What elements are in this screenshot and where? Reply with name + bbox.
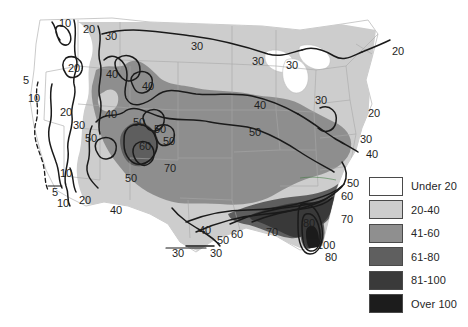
contour-label: 30 [172, 247, 184, 259]
contour-label: 20 [79, 194, 91, 206]
contour-label: 70 [341, 213, 353, 225]
contour-label: 10 [60, 167, 72, 179]
contour-label: 30 [210, 247, 222, 259]
contour-label: 60 [341, 190, 353, 202]
contour-label: 60 [139, 140, 151, 152]
legend-label: Over 100 [411, 298, 457, 310]
contour-label: 30 [105, 30, 117, 42]
contour-map-figure: 1020303020404051030302040203040505050506… [0, 0, 468, 327]
legend-label: 81-100 [411, 274, 446, 286]
legend-swatch [369, 177, 403, 196]
legend-entry: 20-40 [369, 200, 440, 220]
contour-label: 50 [85, 132, 97, 144]
contour-label: 10 [59, 17, 71, 29]
legend-label: 41-60 [411, 227, 440, 239]
map-legend: Under 2020-4041-6061-8081-100Over 100 [369, 176, 468, 316]
contour-label: 40 [110, 204, 122, 216]
legend-label: 61-80 [411, 251, 440, 263]
contour-label: 80 [303, 217, 315, 229]
contour-label: 10 [28, 92, 40, 104]
contour-label: 70 [266, 226, 278, 238]
legend-swatch [369, 271, 403, 290]
legend-label: Under 20 [411, 180, 457, 192]
contour-label: 5 [23, 74, 29, 86]
contour-label: 50 [125, 172, 137, 184]
contour-label: 10 [57, 197, 69, 209]
contour-label: 40 [106, 68, 118, 80]
contour-label: 80 [325, 251, 337, 263]
contour-label: 50 [217, 234, 229, 246]
contour-label: 20 [392, 45, 404, 57]
contour-label: 50 [347, 177, 359, 189]
contour-label: 100 [317, 239, 335, 251]
contour-label: 70 [164, 162, 176, 174]
contour-label: 30 [286, 59, 298, 71]
legend-label: 20-40 [411, 204, 440, 216]
contour-label: 50 [163, 135, 175, 147]
contour-label: 50 [133, 116, 145, 128]
contour-label: 30 [315, 94, 327, 106]
legend-swatch [369, 224, 403, 243]
legend-swatch [369, 200, 403, 219]
legend-entry: 41-60 [369, 223, 440, 243]
legend-entry: 81-100 [369, 270, 446, 290]
contour-label: 40 [199, 224, 211, 236]
contour-label: 50 [249, 126, 261, 138]
legend-entry: 61-80 [369, 247, 440, 267]
legend-swatch [369, 247, 403, 266]
contour-label: 20 [368, 107, 380, 119]
contour-label: 30 [360, 133, 372, 145]
contour-label: 30 [73, 119, 85, 131]
legend-entry: Over 100 [369, 294, 457, 314]
contour-label: 40 [366, 148, 378, 160]
contour-label: 50 [154, 123, 166, 135]
legend-entry: Under 20 [369, 176, 457, 196]
contour-label: 20 [68, 62, 80, 74]
contour-label: 40 [142, 80, 154, 92]
contour-label: 20 [83, 23, 95, 35]
legend-swatch [369, 294, 403, 313]
contour-label: 40 [105, 108, 117, 120]
contour-label: 20 [60, 106, 72, 118]
contour-label: 30 [191, 40, 203, 52]
contour-label: 30 [252, 55, 264, 67]
contour-label: 40 [254, 99, 266, 111]
contour-label: 60 [231, 228, 243, 240]
